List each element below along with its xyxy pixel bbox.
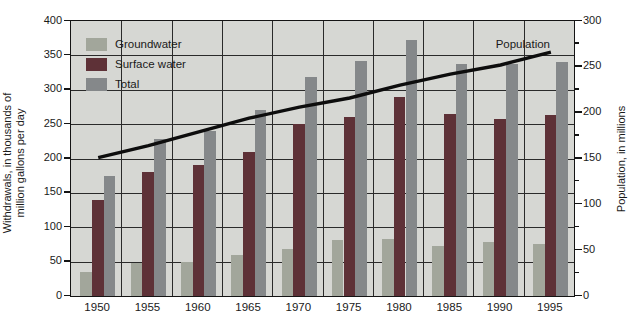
bar-surface-water-1995: [545, 115, 557, 297]
x-label-1995: 1995: [527, 301, 573, 313]
x-label-1960: 1960: [175, 301, 221, 313]
chart: Withdrawals, in thousands of million gal…: [0, 0, 636, 328]
legend-swatch: [86, 78, 107, 91]
right-tick-mark: [575, 295, 582, 297]
right-tick-label-250: 250: [583, 59, 617, 72]
right-tick-label-150: 150: [583, 151, 617, 164]
bar-total-1990: [506, 64, 518, 296]
gridline-v: [423, 21, 424, 296]
bar-surface-water-1970: [293, 124, 305, 296]
x-label-1970: 1970: [275, 301, 321, 313]
bar-surface-water-1980: [394, 97, 406, 296]
right-tick-label-0: 0: [583, 289, 617, 302]
bar-total-1950: [104, 176, 116, 296]
bar-total-1975: [355, 61, 367, 296]
gridline-v: [524, 21, 525, 296]
right-axis-title: Population, in millions: [615, 89, 627, 229]
bar-surface-water-1990: [494, 119, 506, 296]
right-minor-tick-mark: [575, 180, 579, 182]
bar-groundwater-1955: [131, 263, 143, 296]
right-tick-mark: [575, 20, 582, 22]
gridline-v: [473, 21, 474, 296]
x-label-1955: 1955: [124, 301, 170, 313]
legend-swatch: [86, 38, 107, 51]
bar-total-1970: [305, 77, 317, 296]
x-label-1950: 1950: [74, 301, 120, 313]
right-tick-label-50: 50: [583, 243, 617, 256]
bar-total-1960: [204, 131, 216, 296]
legend-swatch: [86, 58, 107, 71]
left-axis-title: Withdrawals, in thousands of million gal…: [1, 63, 27, 263]
bar-groundwater-1975: [332, 240, 344, 296]
legend-item-groundwater: Groundwater: [86, 34, 186, 54]
left-tick-label-150: 150: [28, 185, 62, 198]
bar-groundwater-1995: [533, 244, 545, 296]
left-tick-label-350: 350: [28, 48, 62, 61]
left-tick-label-400: 400: [28, 14, 62, 27]
right-tick-label-300: 300: [583, 14, 617, 27]
x-label-1965: 1965: [225, 301, 271, 313]
x-label-1980: 1980: [376, 301, 422, 313]
bar-groundwater-1980: [382, 239, 394, 296]
left-axis-title-line2: million gallons per day: [14, 63, 27, 263]
gridline-v: [272, 21, 273, 296]
population-line-label: Population: [496, 38, 550, 50]
x-label-1990: 1990: [477, 301, 523, 313]
left-tick-label-50: 50: [28, 254, 62, 267]
right-tick-mark: [575, 249, 582, 251]
legend-label: Surface water: [115, 58, 186, 70]
right-tick-label-200: 200: [583, 105, 617, 118]
bar-groundwater-1950: [80, 272, 92, 296]
left-tick-label-100: 100: [28, 220, 62, 233]
bar-surface-water-1985: [444, 114, 456, 296]
left-tick-label-200: 200: [28, 151, 62, 164]
right-tick-mark: [575, 111, 582, 113]
bar-surface-water-1960: [193, 165, 205, 296]
right-tick-label-100: 100: [583, 197, 617, 210]
left-tick-label-300: 300: [28, 82, 62, 95]
right-minor-tick-mark: [575, 134, 579, 136]
bar-groundwater-1965: [231, 255, 243, 296]
legend-item-total: Total: [86, 74, 186, 94]
right-tick-mark: [575, 203, 582, 205]
legend-label: Groundwater: [115, 38, 181, 50]
bar-groundwater-1985: [432, 246, 444, 296]
right-minor-tick-mark: [575, 42, 579, 44]
bar-total-1995: [556, 62, 568, 296]
right-tick-mark: [575, 65, 582, 67]
right-tick-mark: [575, 157, 582, 159]
bar-total-1955: [154, 139, 166, 296]
bar-surface-water-1955: [142, 172, 154, 296]
right-minor-tick-mark: [575, 88, 579, 90]
bar-groundwater-1960: [181, 262, 193, 296]
right-minor-tick-mark: [575, 272, 579, 274]
x-label-1985: 1985: [426, 301, 472, 313]
legend: GroundwaterSurface waterTotal: [86, 34, 186, 94]
bar-total-1980: [406, 40, 418, 296]
left-tick-label-250: 250: [28, 117, 62, 130]
bar-groundwater-1970: [282, 249, 294, 296]
bar-surface-water-1950: [92, 200, 104, 296]
plot-area: GroundwaterSurface waterTotal Population: [70, 20, 575, 297]
left-tick-label-0: 0: [28, 289, 62, 302]
bar-surface-water-1965: [243, 152, 255, 296]
bar-total-1985: [456, 64, 468, 296]
gridline-v: [373, 21, 374, 296]
left-axis-title-line1: Withdrawals, in thousands of: [1, 63, 14, 263]
x-label-1975: 1975: [326, 301, 372, 313]
legend-item-surface-water: Surface water: [86, 54, 186, 74]
legend-label: Total: [115, 78, 139, 90]
gridline-v: [222, 21, 223, 296]
bar-surface-water-1975: [344, 117, 356, 296]
right-minor-tick-mark: [575, 226, 579, 228]
bar-total-1965: [255, 110, 267, 296]
gridline-v: [323, 21, 324, 296]
bar-groundwater-1990: [483, 242, 495, 296]
